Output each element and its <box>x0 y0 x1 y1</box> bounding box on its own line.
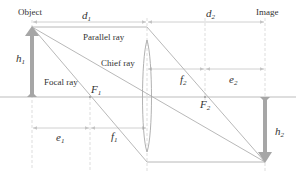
parallel-ray-label: Parallel ray <box>83 33 124 42</box>
image-arrow <box>258 97 272 163</box>
d1-label: d1 <box>82 10 91 23</box>
chief-ray-label: Chief ray <box>101 59 135 68</box>
d2-label: d2 <box>206 8 215 21</box>
f2-label: f2 <box>180 74 187 87</box>
f1-label: f1 <box>111 131 118 144</box>
object-label: Object <box>18 8 42 17</box>
F2-label: F2 <box>200 99 210 112</box>
lens-ray-diagram <box>0 0 296 184</box>
F1-label: F1 <box>91 84 101 97</box>
focal-ray-label: Focal ray <box>44 78 78 87</box>
h1-label: h1 <box>16 53 25 66</box>
image-label: Image <box>256 8 279 17</box>
e2-label: e2 <box>229 74 237 87</box>
h2-label: h2 <box>275 126 284 139</box>
e1-label: e1 <box>56 132 64 145</box>
object-arrow <box>25 26 39 97</box>
